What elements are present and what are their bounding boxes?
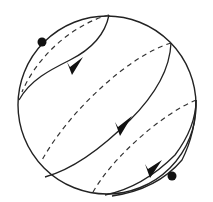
upper-left-point-icon [38, 38, 47, 47]
front-curve-3 [105, 100, 196, 195]
lower-right-point-icon [168, 172, 177, 181]
sphere-diagram [0, 0, 213, 202]
front-curve-4 [112, 100, 196, 196]
middle-arrow-icon [115, 116, 132, 136]
